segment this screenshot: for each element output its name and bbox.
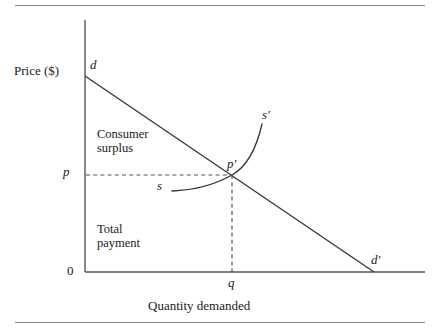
x-axis-title: Quantity demanded (148, 299, 250, 314)
origin-label: 0 (67, 264, 74, 279)
demand-endpoint-label: d′ (371, 253, 380, 268)
equilibrium-point-label: p′ (227, 157, 236, 172)
supply-curve (172, 124, 262, 191)
supply-demand-figure: Price ($) Quantity demanded d d′ s s′ p′… (0, 0, 435, 335)
supply-start-label: s (157, 179, 162, 194)
consumer-surplus-line-2: surplus (97, 141, 148, 155)
total-payment-line-2: payment (97, 236, 140, 250)
supply-endpoint-label: s′ (262, 108, 270, 123)
equilibrium-quantity-label: q (228, 276, 235, 291)
total-payment-line-1: Total (97, 222, 140, 236)
consumer-surplus-label: Consumer surplus (97, 127, 148, 155)
y-axis-title: Price ($) (14, 64, 59, 79)
demand-intercept-label: d (90, 58, 97, 73)
total-payment-label: Total payment (97, 222, 140, 250)
consumer-surplus-line-1: Consumer (97, 127, 148, 141)
equilibrium-price-label: p (63, 165, 70, 180)
